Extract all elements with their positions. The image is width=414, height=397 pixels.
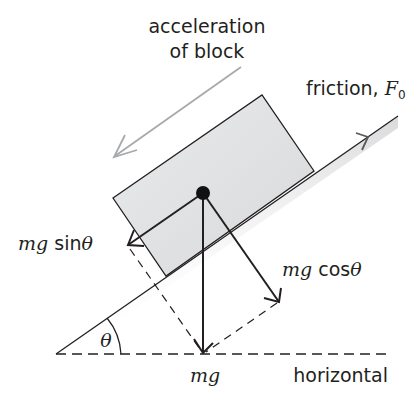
theta-label: θ (100, 329, 112, 351)
mg-cos-mg: mg (282, 258, 312, 280)
mg-cos-func: cos (312, 258, 350, 280)
mg-sin-mg: mg (18, 232, 48, 254)
friction-label-text: friction, (306, 77, 385, 99)
friction-symbol: F (384, 77, 399, 99)
acceleration-label-line1: acceleration (148, 15, 265, 37)
friction-subscript: 0 (398, 88, 406, 102)
inclined-plane-diagram: acceleration of block friction, F0 mg si… (0, 0, 414, 397)
horizontal-label: horizontal (293, 364, 388, 386)
friction-label: friction, F0 (306, 77, 406, 102)
center-of-mass-dot (196, 186, 210, 200)
mg-cos-theta-arrowhead (264, 288, 281, 302)
acceleration-label-line2: of block (170, 40, 245, 62)
mg-sin-theta-label: mg sinθ (18, 232, 93, 254)
mg-cos-theta-label: mg cosθ (282, 258, 362, 280)
mg-cos-theta: θ (350, 258, 362, 280)
dashed-cos-component-guide (206, 303, 277, 352)
mg-sin-theta: θ (81, 232, 93, 254)
mg-sin-func: sin (48, 232, 81, 254)
mg-label: mg (190, 364, 220, 386)
